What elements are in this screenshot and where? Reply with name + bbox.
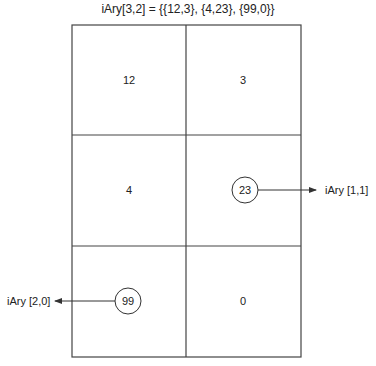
callout-label-iary-1-1: iAry [1,1] bbox=[325, 184, 368, 196]
cell-r1c1: 23 bbox=[225, 184, 265, 196]
cell-r2c1: 0 bbox=[223, 295, 263, 307]
callout-label-iary-2-0: iAry [2,0] bbox=[7, 295, 50, 307]
cell-r0c0: 12 bbox=[109, 74, 149, 86]
cell-r1c0: 4 bbox=[109, 184, 149, 196]
cell-r0c1: 3 bbox=[223, 74, 263, 86]
array-grid-diagram bbox=[0, 0, 376, 366]
cell-r2c0: 99 bbox=[108, 295, 148, 307]
